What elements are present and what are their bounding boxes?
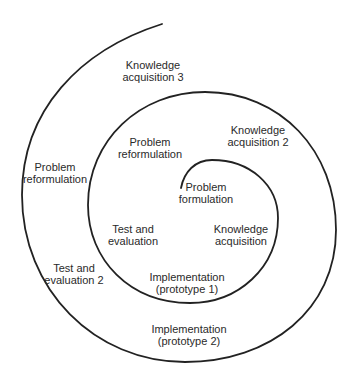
label-implementation-prototype-2: Implementation (prototype 2) bbox=[151, 323, 226, 347]
label-line: acquisition 2 bbox=[227, 136, 288, 148]
label-line: acquisition bbox=[214, 235, 268, 247]
label-line: Test and bbox=[108, 223, 158, 235]
label-problem-formulation: Problem formulation bbox=[179, 181, 233, 205]
label-test-and-evaluation-2: Test and evaluation 2 bbox=[44, 262, 103, 286]
label-line: Test and bbox=[44, 262, 103, 274]
label-line: acquisition 3 bbox=[122, 71, 183, 83]
label-line: (prototype 2) bbox=[151, 335, 226, 347]
label-knowledge-acquisition: Knowledge acquisition bbox=[214, 223, 268, 247]
label-line: reformulation bbox=[118, 148, 182, 160]
label-line: Implementation bbox=[151, 323, 226, 335]
label-problem-reformulation-1: Problem reformulation bbox=[118, 136, 182, 160]
label-knowledge-acquisition-3: Knowledge acquisition 3 bbox=[122, 59, 183, 83]
label-line: Knowledge bbox=[227, 124, 288, 136]
label-line: Problem bbox=[179, 181, 233, 193]
label-problem-reformulation-2: Problem reformulation bbox=[23, 161, 87, 185]
label-line: reformulation bbox=[23, 173, 87, 185]
label-test-and-evaluation: Test and evaluation bbox=[108, 223, 158, 247]
label-line: Problem bbox=[23, 161, 87, 173]
label-line: (prototype 1) bbox=[149, 283, 224, 295]
label-line: Problem bbox=[118, 136, 182, 148]
label-line: Knowledge bbox=[122, 59, 183, 71]
label-line: evaluation 2 bbox=[44, 274, 103, 286]
label-knowledge-acquisition-2: Knowledge acquisition 2 bbox=[227, 124, 288, 148]
label-line: Knowledge bbox=[214, 223, 268, 235]
label-implementation-prototype-1: Implementation (prototype 1) bbox=[149, 271, 224, 295]
label-line: evaluation bbox=[108, 235, 158, 247]
label-line: formulation bbox=[179, 193, 233, 205]
label-line: Implementation bbox=[149, 271, 224, 283]
